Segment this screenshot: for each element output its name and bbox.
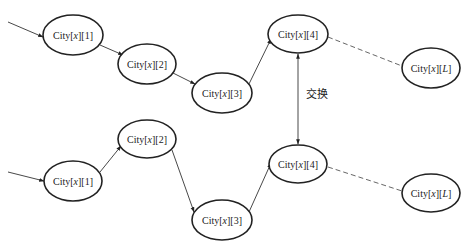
bottom-path-nodes: City[x][1] City[x][2] City[x][3] City[x]… xyxy=(44,120,460,240)
top-city-3-node: City[x][3] xyxy=(192,73,252,113)
top-city-4-node: City[x][4] xyxy=(268,15,328,53)
top-city-2-node: City[x][2] xyxy=(118,44,176,84)
bottom-city-3-node: City[x][3] xyxy=(192,200,252,240)
top-city-4-label: City[x][4] xyxy=(278,29,318,40)
bottom-city-L-label: City[x][L] xyxy=(411,188,452,199)
edge-bottom-city3-to-city4 xyxy=(249,163,271,212)
bottom-city-2-node: City[x][2] xyxy=(118,120,176,158)
edge-top-city2-to-city3 xyxy=(173,73,195,84)
edge-top-city1-to-city2 xyxy=(100,45,123,55)
bottom-city-3-label: City[x][3] xyxy=(202,215,242,226)
edge-start-to-top-city1 xyxy=(8,22,43,37)
swap-indicator: 交换 xyxy=(298,54,328,144)
top-city-L-node: City[x][L] xyxy=(402,48,460,88)
top-city-1-node: City[x][1] xyxy=(43,15,103,55)
city-swap-diagram: 交换 City[x][1] City[x][2] City[x][3] City… xyxy=(0,0,469,251)
edge-top-city3-to-city4 xyxy=(248,39,271,86)
edge-bottom-city2-to-city3 xyxy=(172,150,194,212)
top-city-2-label: City[x][2] xyxy=(127,59,167,70)
bottom-city-1-label: City[x][1] xyxy=(53,176,93,187)
edge-top-city4-to-cityL xyxy=(328,37,402,66)
bottom-city-4-node: City[x][4] xyxy=(269,145,327,183)
edge-bottom-city4-to-cityL xyxy=(328,167,402,191)
edge-bottom-city1-to-city2 xyxy=(100,146,121,172)
top-city-1-label: City[x][1] xyxy=(53,30,93,41)
top-city-L-label: City[x][L] xyxy=(411,63,452,74)
edge-start-to-bottom-city1 xyxy=(8,172,44,181)
bottom-city-L-node: City[x][L] xyxy=(402,174,460,212)
bottom-city-1-node: City[x][1] xyxy=(44,161,102,201)
swap-label: 交换 xyxy=(306,87,328,101)
bottom-city-4-label: City[x][4] xyxy=(278,159,318,170)
bottom-city-2-label: City[x][2] xyxy=(127,134,167,145)
top-city-3-label: City[x][3] xyxy=(202,88,242,99)
